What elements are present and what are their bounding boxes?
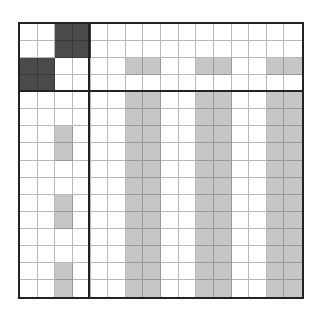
grid-cell-r5-c10[interactable]	[196, 109, 214, 126]
grid-cell-r14-c7[interactable]	[143, 263, 161, 280]
grid-cell-r15-c15[interactable]	[284, 280, 302, 297]
grid-cell-r12-c7[interactable]	[143, 229, 161, 246]
grid-cell-r4-c6[interactable]	[126, 92, 144, 109]
grid-cell-r14-c4[interactable]	[91, 263, 109, 280]
grid-cell-r10-c7[interactable]	[143, 195, 161, 212]
grid-cell-r14-c12[interactable]	[232, 263, 250, 280]
grid-cell-r9-c11[interactable]	[214, 178, 232, 195]
grid-cell-r7-c11[interactable]	[214, 143, 232, 160]
grid-cell-r11-c14[interactable]	[267, 212, 285, 229]
grid-cell-r8-c12[interactable]	[232, 161, 250, 178]
grid-cell-r11-c8[interactable]	[161, 212, 179, 229]
grid-cell-r13-c4[interactable]	[91, 246, 109, 263]
grid-cell-r4-c8[interactable]	[161, 92, 179, 109]
grid-cell-r7-c7[interactable]	[143, 143, 161, 160]
grid-cell-r6-c7[interactable]	[143, 126, 161, 143]
grid-cell-r14-c10[interactable]	[196, 263, 214, 280]
grid-cell-r4-c14[interactable]	[267, 92, 285, 109]
grid-cell-r14-c5[interactable]	[108, 263, 126, 280]
grid-cell-r13-c8[interactable]	[161, 246, 179, 263]
grid-cell-r8-c6[interactable]	[126, 161, 144, 178]
grid-cell-r4-c13[interactable]	[249, 92, 267, 109]
grid-cell-r6-c11[interactable]	[214, 126, 232, 143]
grid-cell-r4-c7[interactable]	[143, 92, 161, 109]
grid-cell-r11-c15[interactable]	[284, 212, 302, 229]
grid-cell-r5-c12[interactable]	[232, 109, 250, 126]
grid-cell-r9-c14[interactable]	[267, 178, 285, 195]
grid-cell-r11-c5[interactable]	[108, 212, 126, 229]
grid-cell-r15-c6[interactable]	[126, 280, 144, 297]
grid-cell-r15-c10[interactable]	[196, 280, 214, 297]
grid-cell-r8-c9[interactable]	[179, 161, 197, 178]
grid-cell-r12-c5[interactable]	[108, 229, 126, 246]
grid-cell-r4-c10[interactable]	[196, 92, 214, 109]
grid-cell-r6-c10[interactable]	[196, 126, 214, 143]
grid-cell-r6-c14[interactable]	[267, 126, 285, 143]
grid-cell-r10-c6[interactable]	[126, 195, 144, 212]
grid-cell-r10-c9[interactable]	[179, 195, 197, 212]
grid-cell-r5-c7[interactable]	[143, 109, 161, 126]
grid-cell-r7-c5[interactable]	[108, 143, 126, 160]
grid-cell-r7-c13[interactable]	[249, 143, 267, 160]
grid-cell-r10-c15[interactable]	[284, 195, 302, 212]
grid-cell-r13-c7[interactable]	[143, 246, 161, 263]
grid-cell-r4-c15[interactable]	[284, 92, 302, 109]
grid-cell-r14-c9[interactable]	[179, 263, 197, 280]
grid-cell-r7-c14[interactable]	[267, 143, 285, 160]
grid-cell-r4-c5[interactable]	[108, 92, 126, 109]
grid-cell-r6-c6[interactable]	[126, 126, 144, 143]
grid-cell-r12-c8[interactable]	[161, 229, 179, 246]
grid-cell-r9-c5[interactable]	[108, 178, 126, 195]
grid-cell-r14-c15[interactable]	[284, 263, 302, 280]
grid-cell-r10-c12[interactable]	[232, 195, 250, 212]
grid-cell-r13-c14[interactable]	[267, 246, 285, 263]
grid-cell-r13-c6[interactable]	[126, 246, 144, 263]
grid-cell-r4-c4[interactable]	[91, 92, 109, 109]
grid-cell-r14-c14[interactable]	[267, 263, 285, 280]
grid-cell-r5-c5[interactable]	[108, 109, 126, 126]
grid-cell-r8-c14[interactable]	[267, 161, 285, 178]
grid-cell-r7-c10[interactable]	[196, 143, 214, 160]
grid-cell-r13-c5[interactable]	[108, 246, 126, 263]
grid-cell-r7-c15[interactable]	[284, 143, 302, 160]
grid-cell-r6-c4[interactable]	[91, 126, 109, 143]
grid-cell-r12-c12[interactable]	[232, 229, 250, 246]
grid-cell-r9-c7[interactable]	[143, 178, 161, 195]
grid-cell-r11-c11[interactable]	[214, 212, 232, 229]
grid-cell-r6-c8[interactable]	[161, 126, 179, 143]
grid-cell-r9-c6[interactable]	[126, 178, 144, 195]
grid-cell-r6-c12[interactable]	[232, 126, 250, 143]
grid-cell-r12-c10[interactable]	[196, 229, 214, 246]
grid-cell-r6-c9[interactable]	[179, 126, 197, 143]
grid-cell-r11-c10[interactable]	[196, 212, 214, 229]
grid-cell-r8-c11[interactable]	[214, 161, 232, 178]
grid-cell-r15-c12[interactable]	[232, 280, 250, 297]
grid-cell-r8-c7[interactable]	[143, 161, 161, 178]
grid-cell-r11-c6[interactable]	[126, 212, 144, 229]
grid-cell-r5-c11[interactable]	[214, 109, 232, 126]
grid-cell-r4-c9[interactable]	[179, 92, 197, 109]
grid-cell-r7-c8[interactable]	[161, 143, 179, 160]
grid-cell-r5-c14[interactable]	[267, 109, 285, 126]
grid-cell-r11-c12[interactable]	[232, 212, 250, 229]
grid-cell-r10-c13[interactable]	[249, 195, 267, 212]
grid-cell-r7-c9[interactable]	[179, 143, 197, 160]
grid-cell-r15-c11[interactable]	[214, 280, 232, 297]
grid-cell-r7-c12[interactable]	[232, 143, 250, 160]
grid-cell-r4-c12[interactable]	[232, 92, 250, 109]
grid-cell-r15-c13[interactable]	[249, 280, 267, 297]
grid-cell-r15-c5[interactable]	[108, 280, 126, 297]
grid-cell-r8-c10[interactable]	[196, 161, 214, 178]
grid-cell-r11-c9[interactable]	[179, 212, 197, 229]
grid-cell-r14-c8[interactable]	[161, 263, 179, 280]
grid-cell-r10-c14[interactable]	[267, 195, 285, 212]
grid-cell-r11-c7[interactable]	[143, 212, 161, 229]
grid-cell-r8-c8[interactable]	[161, 161, 179, 178]
grid-cell-r8-c5[interactable]	[108, 161, 126, 178]
grid-cell-r8-c15[interactable]	[284, 161, 302, 178]
grid-cell-r6-c13[interactable]	[249, 126, 267, 143]
grid-cell-r8-c13[interactable]	[249, 161, 267, 178]
grid-cell-r15-c8[interactable]	[161, 280, 179, 297]
grid-cell-r13-c12[interactable]	[232, 246, 250, 263]
grid-cell-r12-c13[interactable]	[249, 229, 267, 246]
